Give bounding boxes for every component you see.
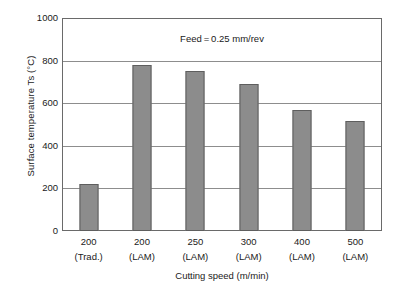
y-tick-label: 600: [24, 98, 58, 108]
y-tick-label: 200: [24, 183, 58, 193]
x-tick-label: 300(LAM): [219, 234, 279, 264]
x-axis-tick-labels: 200(Trad.)200(LAM)250(LAM)300(LAM)400(LA…: [62, 234, 382, 270]
x-tick-method: (LAM): [325, 249, 385, 264]
x-tick-label: 200(LAM): [112, 234, 172, 264]
x-tick-speed: 200: [81, 236, 97, 247]
x-tick-method: (Trad.): [59, 249, 119, 264]
y-axis-tick-labels: 10008006004002000: [20, 18, 58, 231]
x-tick-method: (LAM): [112, 249, 172, 264]
bar-slot: [169, 18, 222, 231]
x-tick-speed: 400: [294, 236, 310, 247]
y-tick-label: 1000: [24, 13, 58, 23]
bar[interactable]: [186, 71, 205, 231]
bar[interactable]: [292, 110, 311, 231]
bar[interactable]: [239, 84, 258, 231]
x-tick-method: (LAM): [219, 249, 279, 264]
y-tick-label: 400: [24, 141, 58, 151]
x-axis-title: Cutting speed (m/min): [62, 270, 382, 281]
bar[interactable]: [79, 184, 98, 231]
y-tick-label: 800: [24, 56, 58, 66]
x-tick-method: (LAM): [272, 249, 332, 264]
x-tick-method: (LAM): [165, 249, 225, 264]
bar[interactable]: [346, 121, 365, 231]
x-tick-speed: 300: [241, 236, 257, 247]
x-tick-label: 250(LAM): [165, 234, 225, 264]
bar-slot: [115, 18, 168, 231]
x-tick-speed: 250: [187, 236, 203, 247]
bar-slot: [329, 18, 382, 231]
chart-annotation: Feed = 0.25 mm/rev: [62, 33, 382, 44]
bar-slot: [222, 18, 275, 231]
bar-chart-figure: Surface temperature Ts (°C) 100080060040…: [0, 0, 398, 294]
x-tick-speed: 500: [347, 236, 363, 247]
bar[interactable]: [132, 65, 151, 231]
x-tick-speed: 200: [134, 236, 150, 247]
x-tick-label: 400(LAM): [272, 234, 332, 264]
bar-slot: [275, 18, 328, 231]
y-tick-label: 0: [24, 226, 58, 236]
x-tick-label: 500(LAM): [325, 234, 385, 264]
bar-slot: [62, 18, 115, 231]
x-tick-label: 200(Trad.): [59, 234, 119, 264]
bar-series: [62, 18, 382, 231]
